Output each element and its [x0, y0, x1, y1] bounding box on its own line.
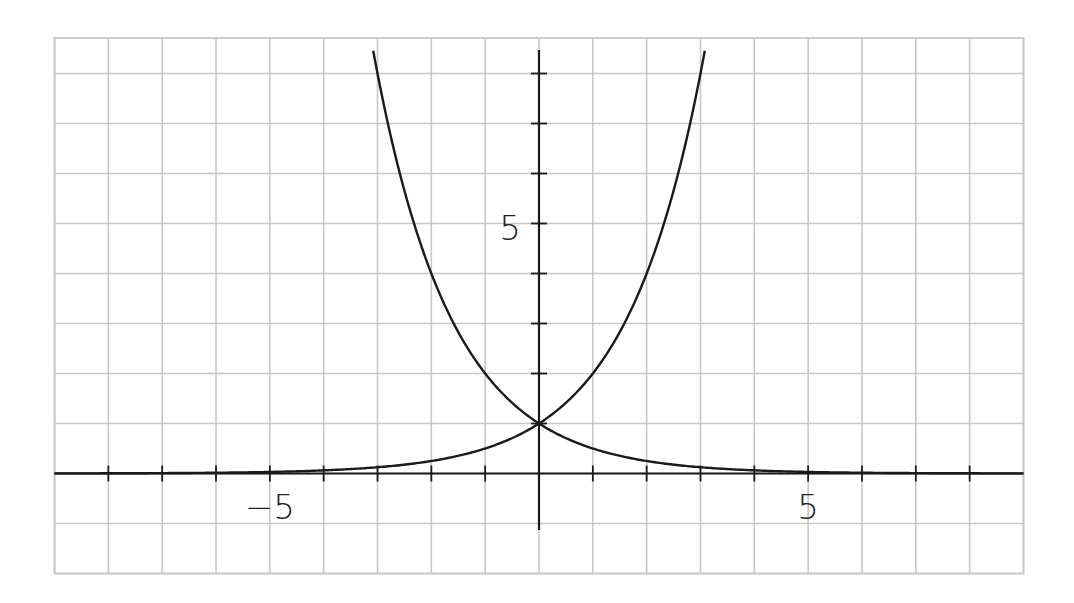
x-tick-label-neg5: −5 — [245, 487, 295, 527]
curve-two-to-x — [55, 51, 705, 474]
x-tick-label-5: 5 — [797, 487, 819, 527]
y-tick-label-5: 5 — [499, 208, 521, 248]
curve-two-to-minus-x — [373, 51, 1023, 474]
exponential-graph: −5 5 5 — [0, 0, 1074, 603]
tick-labels: −5 5 5 — [245, 208, 819, 527]
axes — [55, 50, 1024, 530]
